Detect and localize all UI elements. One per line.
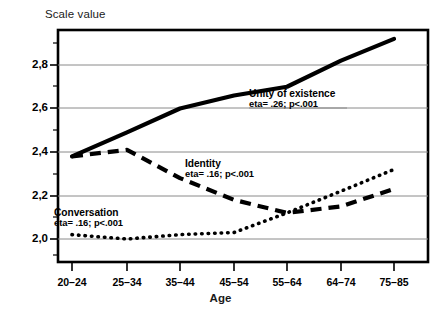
y-tick-label-2-4: 2,4 <box>16 145 48 157</box>
line-chart: Scale value <box>0 0 441 318</box>
annotation-identity: Identity eta= .16; p<.001 <box>185 158 254 180</box>
x-axis-title: Age <box>0 292 441 304</box>
x-tick-label-20-24: 20–24 <box>42 276 102 288</box>
x-tick-label-25-34: 25–34 <box>97 276 157 288</box>
x-axis-ticks <box>72 262 394 271</box>
annotation-unity-of-existence: Unity of existence eta= .26; p<.001 <box>249 88 335 110</box>
annotation-identity-stat: eta= .16; p<.001 <box>185 169 254 180</box>
y-tick-label-2-0: 2,0 <box>16 232 48 244</box>
y-tick-label-2-8: 2,8 <box>16 58 48 70</box>
annotation-conversation: Conversation eta= .16; p<.001 <box>54 207 123 229</box>
y-axis-title: Scale value <box>45 8 106 20</box>
annotation-conversation-stat: eta= .16; p<.001 <box>54 218 123 229</box>
x-tick-label-45-54: 45–54 <box>204 276 264 288</box>
x-tick-label-55-64: 55–64 <box>257 276 317 288</box>
annotation-unity-stat: eta= .26; p<.001 <box>249 99 335 110</box>
y-tick-label-2-2: 2,2 <box>16 189 48 201</box>
x-tick-label-75-85: 75–85 <box>364 276 424 288</box>
x-tick-label-64-74: 64–74 <box>311 276 371 288</box>
x-tick-label-35-44: 35–44 <box>150 276 210 288</box>
y-tick-label-2-6: 2,6 <box>16 101 48 113</box>
